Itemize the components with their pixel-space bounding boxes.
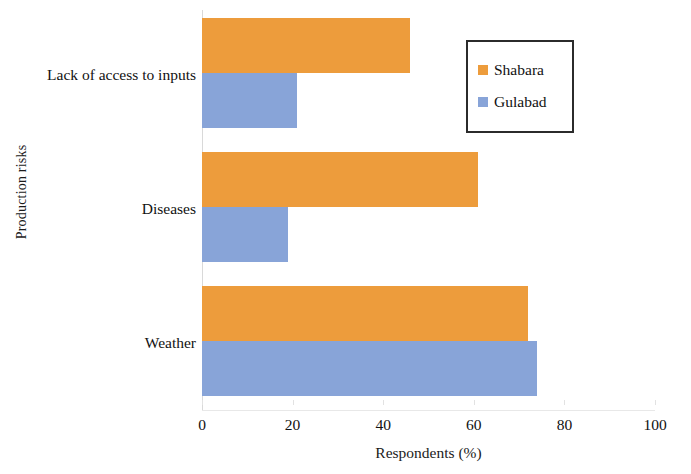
category-axis-labels: Lack of access to inputs Diseases Weathe… — [0, 0, 196, 474]
x-tick-mark — [655, 400, 656, 405]
x-axis-title: Respondents (%) — [202, 444, 655, 462]
x-tick-label-80: 80 — [534, 416, 594, 434]
legend-label-gulabad: Gulabad — [494, 93, 547, 111]
bar-diseases-gulabad — [202, 207, 288, 262]
legend-item-shabara: Shabara — [478, 59, 544, 81]
x-tick-mark — [202, 400, 203, 405]
x-tick-mark — [383, 400, 384, 405]
bar-diseases-shabara — [202, 152, 478, 207]
bar-chart: Production risks Lack of access to input… — [0, 0, 691, 474]
bar-lack-of-access-to-inputs-shabara — [202, 18, 410, 73]
x-tick-label-100: 100 — [625, 416, 685, 434]
x-tick-label-60: 60 — [444, 416, 504, 434]
category-label-diseases: Diseases — [6, 200, 196, 218]
x-tick-label-20: 20 — [263, 416, 323, 434]
x-tick-mark — [564, 400, 565, 405]
x-tick-label-40: 40 — [353, 416, 413, 434]
bar-weather-gulabad — [202, 341, 537, 396]
plot-area — [202, 10, 655, 410]
x-tick-mark — [474, 400, 475, 405]
bar-weather-shabara — [202, 286, 528, 341]
x-tick-label-0: 0 — [172, 416, 232, 434]
x-axis-line — [202, 410, 655, 411]
x-tick-mark — [293, 400, 294, 405]
legend: Shabara Gulabad — [466, 40, 574, 133]
bar-lack-of-access-to-inputs-gulabad — [202, 73, 297, 128]
legend-label-shabara: Shabara — [494, 61, 544, 79]
legend-swatch-icon-shabara — [478, 65, 488, 75]
legend-swatch-icon-gulabad — [478, 97, 488, 107]
category-label-lack-of-access-to-inputs: Lack of access to inputs — [6, 66, 196, 84]
legend-item-gulabad: Gulabad — [478, 91, 547, 113]
category-label-weather: Weather — [6, 334, 196, 352]
